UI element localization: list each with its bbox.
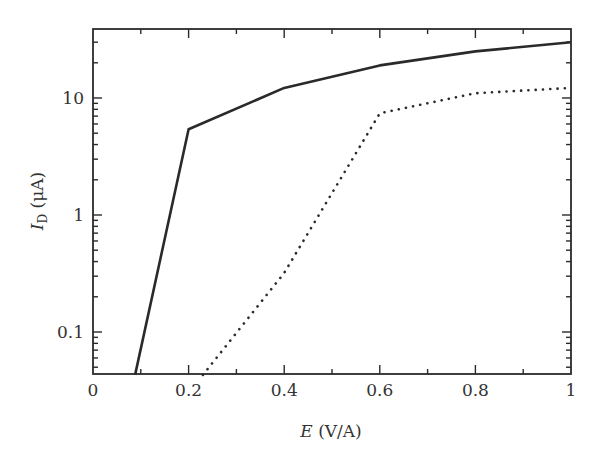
x-tick-label: 0.4 [271,380,298,400]
x-tick-label: 0.2 [175,380,202,400]
axis-ticks [93,29,571,374]
dotted-series-line [203,88,571,375]
line-chart: 00.20.40.60.810.1110 E (V/A) ID (μA) [0,0,600,453]
y-axis-label: ID (μA) [27,172,50,231]
y-tick-label: 1 [73,205,84,225]
y-tick-label: 0.1 [57,322,84,342]
tick-labels: 00.20.40.60.810.1110 [57,88,576,400]
x-tick-label: 0.8 [462,380,489,400]
plot-frame [93,29,571,374]
y-tick-label: 10 [62,88,84,108]
x-axis-label: E (V/A) [299,421,361,441]
x-tick-label: 0 [88,380,99,400]
x-tick-label: 0.6 [366,380,393,400]
plot-series [135,42,571,375]
x-tick-label: 1 [566,380,577,400]
